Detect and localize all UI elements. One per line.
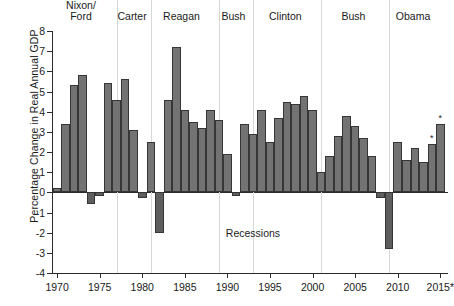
- y-axis-tick: [47, 152, 52, 153]
- presidential-term-label: Bush: [342, 11, 366, 22]
- bar: [87, 192, 96, 204]
- bar: [232, 192, 241, 196]
- bar: [112, 100, 121, 193]
- y-axis-tick: [47, 112, 52, 113]
- x-axis-line: [52, 273, 448, 274]
- x-axis-tick-label: 1995: [258, 281, 281, 293]
- presidential-term-divider: [321, 0, 322, 273]
- x-axis-tick-label: 1985: [173, 281, 196, 293]
- bar: [70, 85, 79, 192]
- x-axis-tick: [313, 273, 314, 278]
- presidential-term-label: Nixon/Ford: [66, 0, 96, 22]
- y-axis-tick-label: 2: [0, 147, 45, 158]
- bar: [257, 110, 266, 193]
- y-axis-tick-label: -4: [0, 268, 45, 279]
- y-axis-tick-label: 5: [0, 86, 45, 97]
- y-axis-tick-label: 3: [0, 127, 45, 138]
- x-axis-tick: [270, 273, 271, 278]
- x-axis-tick-label: 1980: [131, 281, 154, 293]
- presidential-term-label-line1: Obama: [396, 10, 430, 22]
- bar: [240, 124, 249, 193]
- bar: [104, 83, 113, 192]
- presidential-term-label-line2: Ford: [66, 11, 96, 22]
- x-axis-tick: [355, 273, 356, 278]
- y-axis-tick-label: 8: [0, 26, 45, 37]
- y-axis-tick: [47, 253, 52, 254]
- bar: [419, 162, 428, 192]
- y-axis-tick: [47, 273, 52, 274]
- y-axis-tick: [47, 132, 52, 133]
- bar: [95, 192, 104, 196]
- presidential-term-label-line1: Reagan: [163, 10, 200, 22]
- bar: [206, 110, 215, 193]
- presidential-term-label: Carter: [117, 11, 146, 22]
- bar: [181, 110, 190, 193]
- bar: [138, 192, 147, 198]
- bar: [300, 96, 309, 193]
- presidential-term-label-line1: Bush: [342, 10, 366, 22]
- presidential-term-label-line1: Carter: [117, 10, 146, 22]
- bar: [351, 126, 360, 193]
- x-axis-tick: [185, 273, 186, 278]
- bar: [172, 47, 181, 192]
- x-axis-tick-label: 1990: [216, 281, 239, 293]
- y-axis-tick: [47, 233, 52, 234]
- gdp-bar-chart: Percentage Change in Real Annual GDP 876…: [0, 0, 454, 306]
- bar: [147, 142, 156, 192]
- bar: [291, 104, 300, 193]
- bar: [411, 148, 420, 192]
- bar-annotation-asterisk: *: [439, 114, 443, 123]
- bar: [283, 102, 292, 193]
- y-axis-tick: [47, 213, 52, 214]
- x-axis-tick-label: 2010: [386, 281, 409, 293]
- y-axis-tick: [47, 71, 52, 72]
- bar: [428, 144, 437, 192]
- bar: [334, 136, 343, 192]
- plot-area: 876543210-1-2-3-419701975198019851990199…: [52, 31, 448, 273]
- bar: [308, 110, 317, 193]
- y-axis-tick: [47, 51, 52, 52]
- presidential-term-label-line1: Bush: [221, 10, 245, 22]
- bar: [368, 156, 377, 192]
- bar: [189, 122, 198, 193]
- y-axis-tick-label: 0: [0, 187, 45, 198]
- bar: [249, 134, 258, 192]
- y-axis-tick: [47, 92, 52, 93]
- y-axis-tick-label: 7: [0, 46, 45, 57]
- bar: [121, 79, 130, 192]
- bar: [78, 75, 87, 192]
- bar: [53, 188, 62, 192]
- recessions-annotation: Recessions: [226, 227, 280, 239]
- bar: [359, 138, 368, 192]
- y-axis-tick-label: -1: [0, 207, 45, 218]
- presidential-term-label-line1: Clinton: [269, 10, 302, 22]
- bar: [385, 192, 394, 248]
- bar: [129, 130, 138, 193]
- y-axis-tick-label: 1: [0, 167, 45, 178]
- x-axis-tick-label: 2015*: [427, 281, 454, 293]
- bar: [266, 142, 275, 192]
- y-axis-tick-label: 6: [0, 66, 45, 77]
- x-axis-tick: [57, 273, 58, 278]
- bar-annotation-asterisk: *: [430, 134, 434, 143]
- bar: [317, 172, 326, 192]
- bar: [325, 156, 334, 192]
- bar: [61, 124, 70, 193]
- presidential-term-label: Reagan: [163, 11, 200, 22]
- x-axis-tick-label: 1970: [45, 281, 68, 293]
- bar: [164, 100, 173, 193]
- x-axis-tick: [142, 273, 143, 278]
- presidential-term-label: Bush: [221, 11, 245, 22]
- bar: [223, 154, 232, 192]
- y-axis-tick-label: -3: [0, 248, 45, 259]
- bar: [376, 192, 385, 198]
- x-axis-tick: [440, 273, 441, 278]
- bar: [342, 116, 351, 193]
- bar: [198, 128, 207, 193]
- y-axis-tick-label: 4: [0, 106, 45, 117]
- y-axis-tick: [47, 172, 52, 173]
- x-axis-tick-label: 2005: [343, 281, 366, 293]
- presidential-term-divider: [151, 0, 152, 273]
- bar: [155, 192, 164, 232]
- x-axis-tick: [227, 273, 228, 278]
